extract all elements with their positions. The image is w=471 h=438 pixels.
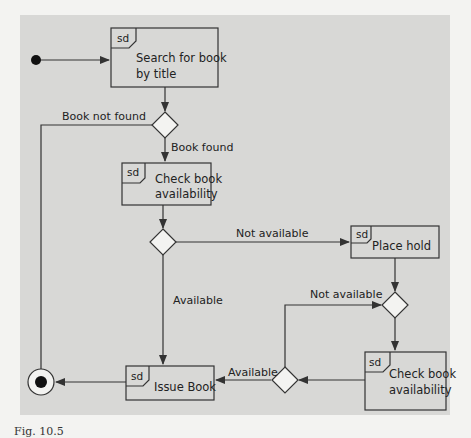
interaction-check-availability-2: sd Check book availability [365, 352, 456, 410]
svg-text:sd: sd [131, 370, 143, 382]
svg-text:availability: availability [389, 383, 452, 397]
search-line2: by title [136, 67, 176, 81]
edge-book-not-found [41, 125, 153, 369]
search-line1: Search for book [136, 51, 227, 65]
decision-availability-1 [150, 229, 176, 255]
svg-text:Place hold: Place hold [372, 239, 431, 253]
decision-book-found [152, 112, 178, 138]
svg-text:sd: sd [369, 356, 381, 368]
label-book-found: Book found [171, 141, 233, 154]
interaction-check-availability-1: sd Check book availability [122, 163, 222, 205]
interaction-search-book: sd Search for book by title [111, 28, 227, 87]
figure-caption: Fig. 10.5 [14, 425, 64, 438]
svg-text:Check book: Check book [155, 172, 222, 186]
svg-text:Issue Book: Issue Book [154, 380, 216, 394]
label-not-available-1: Not available [236, 227, 309, 240]
svg-text:availability: availability [155, 187, 218, 201]
svg-text:sd: sd [356, 228, 368, 240]
label-not-available-2: Not available [310, 288, 383, 301]
svg-text:Check book: Check book [389, 367, 456, 381]
interaction-place-hold: sd Place hold [351, 226, 439, 258]
initial-node-icon [31, 55, 41, 65]
label-book-not-found: Book not found [62, 110, 146, 123]
label-available-1: Available [173, 294, 223, 307]
interaction-issue-book: sd Issue Book [126, 366, 216, 400]
merge-place-hold [382, 292, 408, 318]
final-node-icon [28, 369, 54, 395]
label-available-2: Available [228, 366, 278, 379]
svg-text:sd: sd [127, 166, 139, 178]
svg-text:sd: sd [117, 32, 129, 44]
